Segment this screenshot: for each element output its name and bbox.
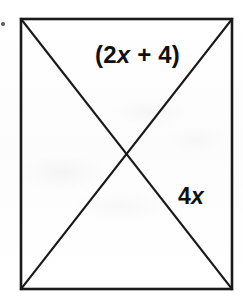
label-top-variable: x — [117, 41, 131, 68]
scan-speck — [1, 22, 5, 26]
label-right-variable: x — [191, 183, 204, 209]
geometry-figure: (2x + 4) 4x — [0, 0, 243, 298]
label-right-prefix: 4 — [178, 183, 191, 209]
expression-4x: 4x — [178, 185, 204, 208]
label-top-prefix: (2 — [95, 41, 117, 68]
label-top-suffix: + 4) — [130, 41, 180, 68]
expression-2x-plus-4: (2x + 4) — [95, 43, 180, 67]
